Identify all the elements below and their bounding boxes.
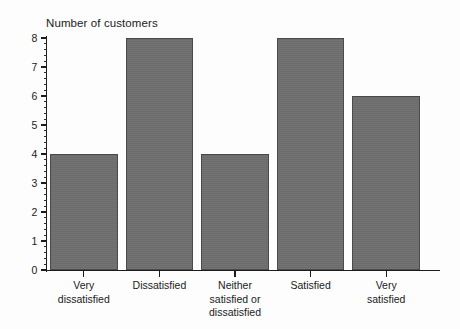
bar-chart: Number of customers 012345678 Very dissa… [0,0,460,329]
bar [50,154,118,270]
x-category-label: Very satisfied [367,279,406,306]
bar [352,96,420,270]
bar [277,38,345,270]
x-axis-category-labels: Very dissatisfiedDissatisfiedNeither sat… [0,279,460,329]
bar [201,154,269,270]
x-category-label: Satisfied [290,279,330,293]
bar [126,38,194,270]
x-category-label: Neither satisfied or dissatisfied [209,279,261,320]
x-category-label: Very dissatisfied [58,279,110,306]
x-category-label: Dissatisfied [133,279,187,293]
